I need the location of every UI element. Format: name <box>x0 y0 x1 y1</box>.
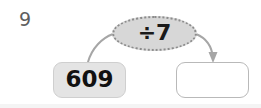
page-bottom-strip <box>0 104 261 108</box>
operation-label: ÷7 <box>138 22 172 44</box>
operation-oval[interactable]: ÷7 <box>112 16 197 51</box>
input-to-operation-arrow <box>88 34 113 62</box>
function-machine-worksheet-item: 9 ÷7 609 <box>0 0 261 108</box>
input-value-label: 609 <box>65 68 113 91</box>
input-value-box: 609 <box>53 62 126 98</box>
answer-input-box[interactable] <box>176 62 249 98</box>
